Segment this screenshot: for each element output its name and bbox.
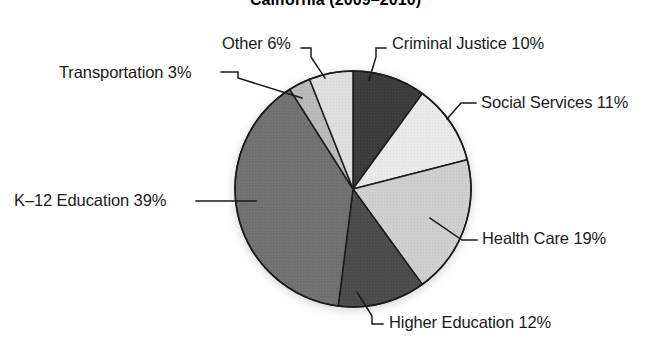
slice-label-criminal-justice: Criminal Justice 10%	[392, 34, 544, 53]
slice-label-health-care: Health Care 19%	[482, 229, 606, 248]
slice-label-higher-education: Higher Education 12%	[389, 313, 551, 332]
slice-label-transportation: Transportation 3%	[59, 63, 192, 82]
slice-label-social-services: Social Services 11%	[481, 93, 628, 112]
leader-line-social-services	[447, 103, 476, 119]
pie-chart-figure: California (2009–2010)	[0, 0, 671, 340]
slice-label-other: Other 6%	[222, 34, 291, 53]
pie-slices-group	[235, 71, 471, 307]
slice-label-k12-education: K–12 Education 39%	[14, 191, 166, 210]
leader-line-transportation	[221, 72, 302, 98]
pie-chart-graphic	[0, 0, 671, 340]
leader-line-other	[301, 48, 325, 78]
